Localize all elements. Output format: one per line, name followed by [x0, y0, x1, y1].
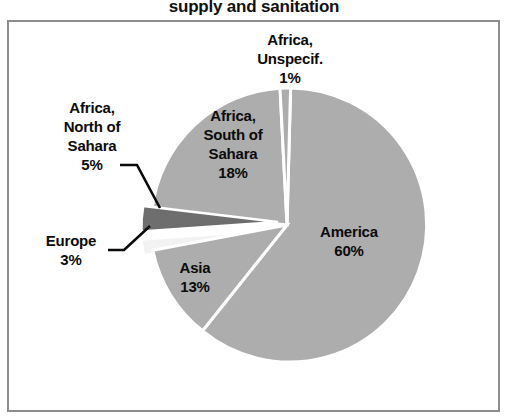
- pie-label-africa-north-of-sahara: Africa, North of Sahara 5%: [22, 98, 162, 174]
- pie-label-africa-unspecif: Africa, Unspecif. 1%: [215, 30, 365, 87]
- pie-label-america: America 60%: [294, 222, 404, 260]
- pie-label-europe: Europe 3%: [16, 231, 126, 269]
- pie-label-africa-south-of-sahara: Africa, South of Sahara 18%: [178, 106, 288, 182]
- pie-label-asia: Asia 13%: [150, 258, 240, 296]
